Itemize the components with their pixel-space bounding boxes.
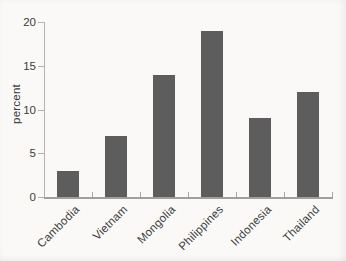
y-tick-label: 20	[8, 15, 36, 29]
x-tick-mark	[92, 192, 93, 197]
bar-thailand	[297, 92, 319, 197]
category-label-philippines: Philippines	[176, 203, 225, 252]
bar-mongolia	[153, 75, 175, 198]
y-tick-mark	[38, 110, 44, 111]
category-label-cambodia: Cambodia	[35, 203, 82, 250]
category-label-thailand: Thailand	[281, 203, 322, 244]
category-label-indonesia: Indonesia	[228, 203, 273, 248]
bar-philippines	[201, 31, 223, 197]
y-tick-label: 10	[8, 103, 36, 117]
y-axis-line	[44, 22, 45, 198]
y-tick-label: 5	[8, 146, 36, 160]
bar-indonesia	[249, 118, 271, 197]
y-tick-mark	[38, 66, 44, 67]
bar-chart-figure: percent 05101520 CambodiaVietnamMongolia…	[0, 0, 346, 261]
y-tick-label: 15	[8, 59, 36, 73]
x-axis-line	[44, 197, 333, 199]
bar-vietnam	[105, 136, 127, 197]
x-tick-mark	[284, 192, 285, 197]
y-tick-mark	[38, 197, 44, 198]
bar-cambodia	[57, 171, 79, 197]
x-tick-mark	[236, 192, 237, 197]
x-tick-mark	[140, 192, 141, 197]
x-tick-mark	[188, 192, 189, 197]
y-tick-mark	[38, 22, 44, 23]
x-tick-mark	[332, 192, 333, 197]
category-label-vietnam: Vietnam	[90, 203, 129, 242]
category-label-mongolia: Mongolia	[135, 203, 178, 246]
y-tick-label: 0	[8, 190, 36, 204]
y-tick-mark	[38, 153, 44, 154]
